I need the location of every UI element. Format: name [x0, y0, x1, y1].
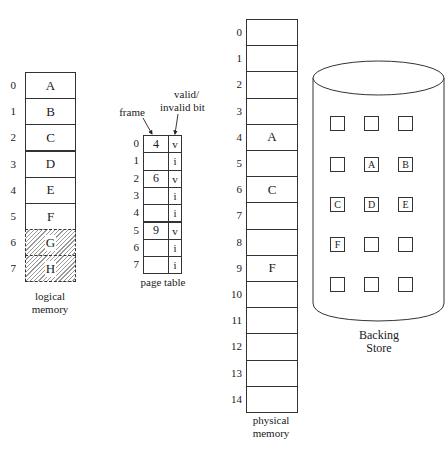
backing-store-block: D [364, 197, 379, 212]
backing-store-cylinder-icon [0, 0, 446, 451]
backing-store-block [398, 277, 413, 292]
backing-store-block: A [364, 157, 379, 172]
backing-store-block [330, 116, 345, 131]
backing-store-block [330, 157, 345, 172]
backing-store-label-line2: Store [348, 342, 410, 355]
backing-store-block: E [398, 197, 413, 212]
backing-store-block: C [330, 197, 345, 212]
backing-store-block [398, 116, 413, 131]
backing-store-block [398, 237, 413, 252]
backing-store-block [330, 277, 345, 292]
backing-store-block [364, 116, 379, 131]
backing-store-block [364, 237, 379, 252]
backing-store-block: B [398, 157, 413, 172]
backing-store-label: Backing Store [348, 329, 410, 355]
backing-store-block: F [330, 237, 345, 252]
backing-store-block [364, 277, 379, 292]
